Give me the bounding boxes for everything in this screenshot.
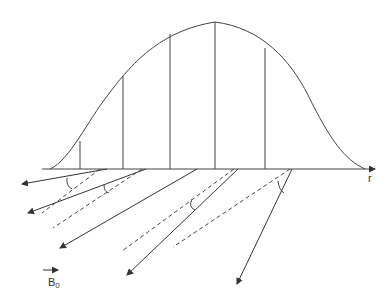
diagram-canvas [0,0,391,302]
b0-label: B0 [48,276,60,290]
angle-arcs [67,178,284,210]
dashed-reference-lines [42,169,290,251]
b0-label-sub: 0 [55,281,59,290]
field-vectors [22,169,292,284]
r-axis-label: r [368,172,372,184]
gaussian-curve [50,22,365,169]
